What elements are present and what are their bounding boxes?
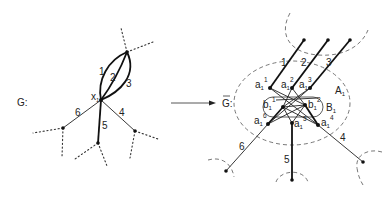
edge-3-label: 3 — [126, 78, 132, 89]
edge-5 — [98, 100, 101, 143]
stub-bottom-right — [98, 143, 107, 166]
stub-left-left — [33, 128, 63, 133]
edge-1-label: 1 — [281, 57, 287, 68]
edge-5-label: 5 — [102, 120, 108, 131]
vertex-left — [61, 126, 65, 130]
vertex-bottom-4 — [361, 160, 365, 164]
stub-top-up — [121, 28, 127, 52]
vertex-b1-1 — [281, 105, 285, 109]
graph-g-bar: G: — [208, 13, 382, 185]
stub-right-right — [135, 131, 158, 139]
stub-left-down — [62, 128, 63, 157]
graph-g-bar-label: G: — [222, 98, 233, 109]
vertex-top-2 — [326, 38, 330, 42]
edge-6 — [226, 124, 268, 171]
region-arc-6 — [208, 159, 234, 177]
region-arc-4 — [357, 151, 382, 185]
vertex-a1-2 — [290, 86, 294, 90]
edge-3-label: 3 — [326, 57, 332, 68]
vertex-bottom-6 — [224, 169, 228, 173]
vertex-x1 — [99, 98, 103, 102]
graph-g-label: G: — [17, 97, 28, 108]
edge-2-label: 2 — [110, 72, 116, 83]
stub-right-down — [130, 131, 135, 158]
diagram-canvas: G: x1 1 2 3 4 5 6 G: — [0, 0, 387, 199]
vertex-a1-3 — [308, 86, 312, 90]
edge-5-label: 5 — [284, 154, 290, 165]
vertex-bottom-5 — [290, 178, 294, 182]
edge-4 — [318, 125, 363, 162]
label-a1-6: a16 — [254, 112, 267, 127]
edge-6 — [63, 100, 101, 128]
vertex-right — [133, 129, 137, 133]
label-set-a1: A1 — [335, 85, 346, 97]
vertex-a1-6 — [266, 122, 270, 126]
vertex-x1-label: x1 — [91, 91, 100, 103]
edge-4-label: 4 — [340, 132, 346, 143]
edge-1-label: 1 — [99, 66, 105, 77]
label-b1-1: b11 — [263, 96, 276, 111]
label-a1-1: a11 — [255, 76, 268, 91]
vertex-a1-1 — [268, 86, 272, 90]
label-a1-4: a14 — [321, 114, 334, 129]
vertex-top — [125, 50, 129, 54]
vertex-top-3 — [348, 38, 352, 42]
label-set-b1: B1 — [326, 102, 337, 114]
edge-2-label: 2 — [301, 57, 307, 68]
edge-6-label: 6 — [239, 141, 245, 152]
vertex-b1-2 — [303, 103, 307, 107]
transform-arrow — [171, 101, 216, 106]
vertex-a1-4 — [316, 123, 320, 127]
edge-4-label: 4 — [119, 107, 125, 118]
edge-6-label: 6 — [75, 107, 81, 118]
stub-bottom-left — [75, 143, 98, 159]
graph-g: G: x1 1 2 3 4 5 6 — [17, 28, 158, 166]
vertex-top-1 — [302, 38, 306, 42]
stub-top-right — [127, 42, 153, 52]
vertex-bottom — [96, 141, 100, 145]
